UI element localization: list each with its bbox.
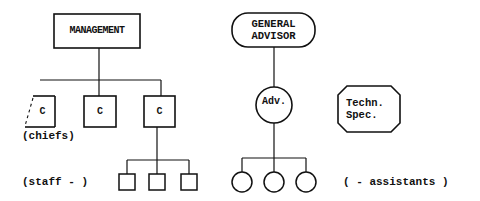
chiefs-caption: (chiefs) bbox=[22, 131, 75, 142]
management-label: MANAGEMENT bbox=[54, 14, 140, 48]
general-advisor-line-1: GENERAL bbox=[251, 18, 295, 30]
technical-specialist-line-1: Techn. bbox=[346, 97, 384, 109]
technical-specialist-label: Techn. Spec. bbox=[338, 86, 400, 132]
advisor-label: Adv. bbox=[256, 87, 292, 123]
org-chart-diagram: MANAGEMENT C C C (chiefs) (staff - ) GEN… bbox=[0, 0, 480, 201]
assistant-circle-1 bbox=[232, 172, 252, 192]
technical-specialist-line-2: Spec. bbox=[346, 109, 378, 121]
assistant-circle-3 bbox=[296, 172, 316, 192]
chief-1-label: C bbox=[30, 96, 55, 127]
staff-box-3 bbox=[181, 174, 197, 190]
chief-3-label: C bbox=[144, 96, 175, 127]
general-advisor-line-2: ADVISOR bbox=[251, 30, 295, 42]
staff-box-2 bbox=[149, 174, 165, 190]
assistant-circle-2 bbox=[264, 172, 284, 192]
staff-box-1 bbox=[119, 174, 135, 190]
chief-2-label: C bbox=[84, 96, 116, 127]
general-advisor-label: GENERAL ADVISOR bbox=[232, 13, 315, 47]
assistants-caption: ( - assistants ) bbox=[343, 177, 449, 188]
staff-caption: (staff - ) bbox=[22, 177, 88, 188]
